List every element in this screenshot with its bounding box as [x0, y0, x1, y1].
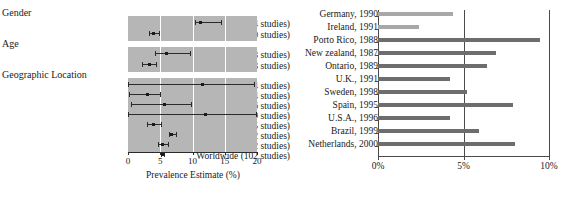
figure-container: Gender Age Geographic Location Male (44 …	[0, 0, 561, 197]
bar-y-tick	[375, 107, 378, 108]
forest-x-tick	[225, 152, 226, 155]
forest-ci-cap	[142, 62, 143, 67]
bar-x-tick-label: 10%	[534, 161, 561, 172]
bar-y-tick	[375, 81, 378, 82]
forest-ci-cap	[128, 112, 129, 117]
forest-point-estimate	[161, 143, 164, 146]
bar-x-tick	[378, 156, 379, 160]
forest-point-estimate	[163, 103, 166, 106]
bar-category-label: Sweden, 1998	[288, 87, 378, 97]
bar-category-label: Porto Rico, 1988	[288, 35, 378, 45]
bar-y-tick	[375, 146, 378, 147]
bar-y-tick	[375, 120, 378, 121]
forest-ci-cap	[190, 51, 191, 56]
forest-ci-cap	[256, 112, 257, 117]
forest-ci-cap	[149, 31, 150, 36]
forest-plot: Gender Age Geographic Location Male (44 …	[0, 0, 290, 197]
forest-ci-cap	[129, 92, 130, 97]
bar-x-tick-label: 5%	[449, 161, 479, 172]
bar-category-label: Germany, 1990	[288, 9, 378, 19]
bar-category-label: Brazil, 1999	[288, 126, 378, 136]
bar-item	[378, 116, 450, 120]
forest-x-tick-label: 15	[215, 156, 235, 166]
bar-y-tick	[375, 55, 378, 56]
bar-y-tick	[375, 68, 378, 69]
bar-category-label: Spain, 1995	[288, 100, 378, 110]
forest-point-estimate	[165, 52, 168, 55]
forest-gridline	[160, 16, 161, 41]
forest-ci-cap	[158, 142, 159, 147]
bar-gridline	[464, 10, 465, 156]
bar-category-label: U.S.A., 1996	[288, 113, 378, 123]
forest-x-tick-label: 0	[118, 156, 138, 166]
bar-x-tick	[464, 156, 465, 160]
bar-category-label: Netherlands, 2000	[288, 139, 378, 149]
forest-point-estimate	[204, 113, 207, 116]
forest-point-estimate	[199, 21, 202, 24]
forest-confidence-interval	[129, 94, 160, 95]
forest-point-estimate	[152, 32, 155, 35]
forest-panel-gender	[128, 16, 257, 41]
forest-x-tick	[193, 152, 194, 155]
forest-gridline	[160, 47, 161, 72]
forest-point-estimate	[152, 123, 155, 126]
forest-point-estimate	[170, 133, 173, 136]
bar-y-tick	[375, 29, 378, 30]
forest-ci-cap	[128, 82, 129, 87]
forest-ci-cap	[254, 82, 255, 87]
bar-item	[378, 51, 496, 55]
forest-ci-cap	[156, 62, 157, 67]
forest-ci-cap	[131, 102, 132, 107]
bar-item	[378, 25, 419, 29]
forest-confidence-interval	[131, 104, 190, 105]
bar-y-tick	[375, 42, 378, 43]
forest-ci-cap	[195, 20, 196, 25]
forest-group-heading-geographic-location: Geographic Location	[2, 70, 87, 80]
bar-item	[378, 12, 453, 16]
forest-point-estimate	[201, 83, 204, 86]
bar-item	[378, 103, 513, 107]
bar-item	[378, 129, 479, 133]
bar-item	[378, 90, 467, 94]
forest-gridline	[193, 47, 194, 72]
forest-x-tick	[160, 152, 161, 155]
forest-gridline	[225, 16, 226, 41]
forest-x-axis-title: Prevalence Estimate (%)	[128, 170, 258, 181]
bar-y-tick	[375, 133, 378, 134]
forest-x-tick-label: 10	[183, 156, 203, 166]
forest-gridline	[225, 47, 226, 72]
forest-ci-cap	[161, 122, 162, 127]
forest-panel-age	[128, 47, 257, 72]
bar-item	[378, 77, 450, 81]
forest-point-estimate	[148, 63, 151, 66]
forest-ci-cap	[147, 122, 148, 127]
forest-ci-cap	[191, 102, 192, 107]
forest-gridline	[193, 16, 194, 41]
bar-category-label: Ireland, 1991	[288, 22, 378, 32]
forest-x-tick	[257, 152, 258, 155]
bar-item	[378, 38, 540, 42]
forest-group-heading-age: Age	[2, 39, 19, 49]
bar-x-tick	[549, 156, 550, 160]
bar-gridline	[549, 10, 550, 156]
forest-point-estimate	[146, 93, 149, 96]
bar-item	[378, 64, 487, 68]
bar-y-tick	[375, 94, 378, 95]
bar-y-axis-line	[378, 10, 379, 156]
forest-x-tick	[128, 152, 129, 155]
forest-gridline	[225, 78, 226, 152]
forest-gridline	[193, 78, 194, 152]
bar-category-label: U.K., 1991	[288, 74, 378, 84]
bar-category-label: Ontario, 1989	[288, 61, 378, 71]
forest-confidence-interval	[128, 114, 256, 115]
forest-ci-cap	[168, 142, 169, 147]
forest-ci-cap	[176, 132, 177, 137]
forest-x-tick-label: 20	[247, 156, 267, 166]
forest-gridline	[160, 78, 161, 152]
forest-ci-cap	[159, 31, 160, 36]
forest-ci-cap	[221, 20, 222, 25]
forest-confidence-interval	[155, 53, 190, 54]
forest-ci-cap	[155, 51, 156, 56]
bar-category-label: New zealand, 1987	[288, 48, 378, 58]
forest-panel-geographic	[128, 78, 257, 152]
